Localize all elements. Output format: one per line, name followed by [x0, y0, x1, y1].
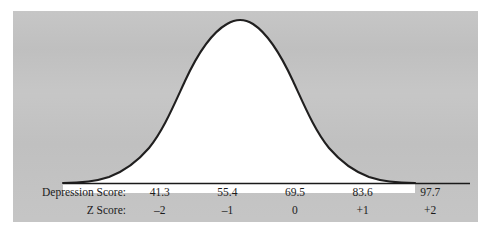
- row-label-depression-score: Depression Score:: [13, 183, 126, 201]
- z-score-value-4: +1: [329, 201, 397, 219]
- z-score-value-1: –2: [126, 201, 194, 219]
- value-table: Depression Score: 41.3 55.4 69.5 83.6 97…: [13, 183, 478, 219]
- depression-score-value-3: 69.5: [261, 183, 329, 201]
- table-row-depression-score: Depression Score: 41.3 55.4 69.5 83.6 97…: [13, 183, 478, 201]
- table-spacer-cell: [464, 201, 478, 219]
- figure-container: Depression Score: 41.3 55.4 69.5 83.6 97…: [0, 0, 493, 239]
- z-score-value-5: +2: [396, 201, 464, 219]
- z-score-value-3: 0: [261, 201, 329, 219]
- depression-score-value-4: 83.6: [329, 183, 397, 201]
- z-score-value-2: –1: [194, 201, 262, 219]
- row-label-z-score: Z Score:: [13, 201, 126, 219]
- depression-score-value-5: 97.7: [396, 183, 464, 201]
- curve-fill: [63, 20, 415, 193]
- axis-label-table: Depression Score: 41.3 55.4 69.5 83.6 97…: [13, 183, 478, 222]
- depression-score-value-2: 55.4: [194, 183, 262, 201]
- table-spacer-cell: [464, 183, 478, 201]
- table-row-z-score: Z Score: –2 –1 0 +1 +2: [13, 201, 478, 219]
- depression-score-value-1: 41.3: [126, 183, 194, 201]
